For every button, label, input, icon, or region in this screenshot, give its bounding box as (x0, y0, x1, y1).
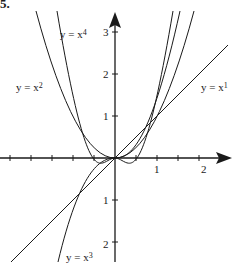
label-x2: y = x2 (16, 82, 43, 93)
y-tick-label-neg1: 1 (103, 195, 109, 206)
label-x4: y = x4 (60, 29, 87, 40)
curve-x1 (11, 45, 228, 262)
y-tick-label-3: 3 (103, 27, 109, 38)
y-tick-label-2: 2 (103, 69, 109, 80)
curve-x3 (58, 11, 180, 262)
power-functions-graph (0, 0, 236, 268)
label-x3: y = x3 (66, 252, 93, 263)
y-tick-label-1: 1 (103, 111, 109, 122)
x-tick-label-2: 2 (201, 164, 207, 175)
x-tick-label-1: 1 (154, 164, 160, 175)
label-x1: y = x1 (201, 82, 228, 93)
y-tick-label-neg2: 2 (103, 239, 109, 250)
